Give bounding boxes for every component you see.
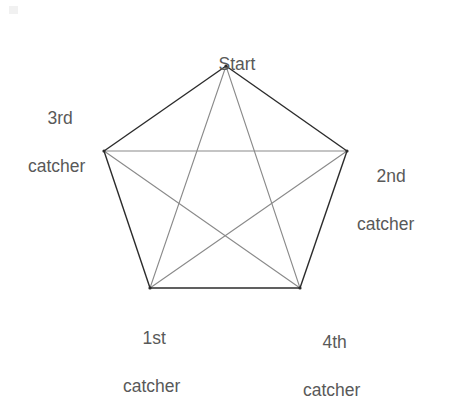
label-1st-catcher-line1: 1st [142, 328, 165, 348]
vertex-3rd [102, 149, 105, 152]
label-start-text: Start [218, 54, 255, 74]
label-2nd-catcher-line2: catcher [357, 212, 414, 236]
label-2nd-catcher-line1: 2nd [376, 166, 405, 186]
label-4th-catcher: 4th catcher [303, 306, 360, 400]
vertex-2nd [345, 149, 348, 152]
label-4th-catcher-line1: 4th [322, 332, 346, 352]
label-3rd-catcher: 3rd catcher [28, 82, 85, 226]
vertex-1st [148, 286, 151, 289]
label-1st-catcher: 1st catcher [123, 302, 180, 400]
label-start: Start [199, 28, 255, 100]
label-2nd-catcher: 2nd catcher [357, 140, 414, 284]
diagonal-1st-to-2nd [150, 151, 347, 288]
label-3rd-catcher-line1: 3rd [47, 108, 72, 128]
vertex-4th [298, 286, 301, 289]
label-3rd-catcher-line2: catcher [28, 154, 85, 178]
diagonal-3rd-to-4th [104, 151, 300, 288]
edge-1st-to-3rd [104, 151, 150, 288]
label-1st-catcher-line2: catcher [123, 374, 180, 398]
edge-2nd-to-4th [300, 151, 347, 288]
label-4th-catcher-line2: catcher [303, 378, 360, 400]
